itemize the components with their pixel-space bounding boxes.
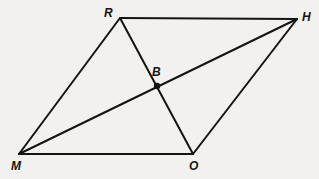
point-label-H: H bbox=[302, 11, 311, 23]
intersection-dot-B bbox=[154, 83, 160, 89]
point-label-R: R bbox=[104, 7, 113, 19]
side-MR bbox=[19, 18, 120, 154]
point-label-B: B bbox=[152, 66, 161, 78]
diagram-canvas bbox=[0, 0, 319, 179]
point-label-O: O bbox=[189, 160, 198, 172]
point-label-M: M bbox=[11, 160, 21, 172]
geometry-figure: RHMOB bbox=[0, 0, 319, 179]
side-RH bbox=[120, 18, 297, 19]
marker-layer bbox=[154, 83, 160, 89]
side-HO bbox=[193, 19, 297, 154]
